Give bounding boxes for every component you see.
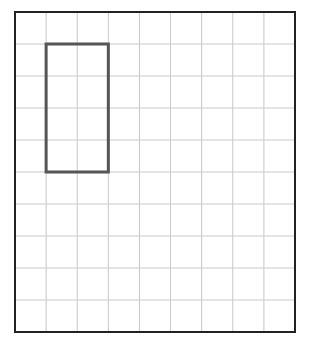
grid-diagram	[0, 0, 312, 350]
